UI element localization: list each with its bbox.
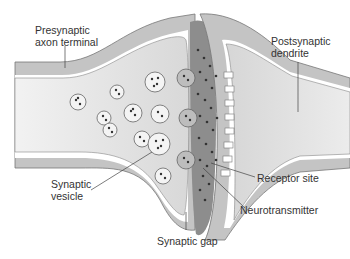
label-neurotransmitter: Neurotransmitter <box>240 204 318 216</box>
label-presynaptic-line1: Presynaptic <box>35 24 98 36</box>
label-presynaptic-line2: axon terminal <box>35 36 98 48</box>
label-vesicle-line1: Synaptic <box>51 178 91 190</box>
label-synaptic-vesicle: Synaptic vesicle <box>51 178 91 202</box>
synapse-diagram: Presynaptic axon terminal Postsynaptic d… <box>0 0 350 259</box>
label-postsynaptic-line1: Postsynaptic <box>271 35 331 47</box>
label-synaptic-gap: Synaptic gap <box>157 235 218 247</box>
label-presynaptic: Presynaptic axon terminal <box>35 24 98 48</box>
label-receptor-site: Receptor site <box>257 172 319 184</box>
label-postsynaptic-line2: dendrite <box>271 47 331 59</box>
label-vesicle-line2: vesicle <box>51 190 91 202</box>
label-postsynaptic: Postsynaptic dendrite <box>271 35 331 59</box>
